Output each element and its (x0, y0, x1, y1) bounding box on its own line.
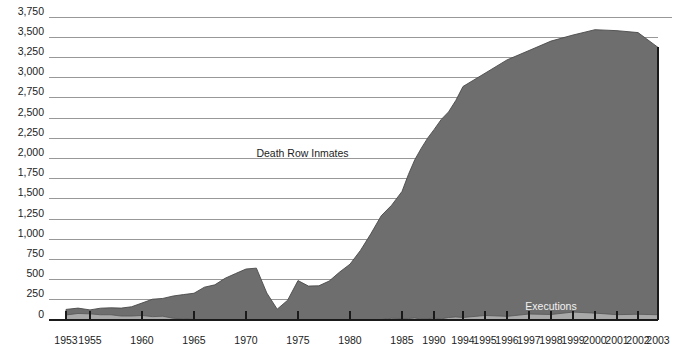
x-tick-label-1975: 1975 (286, 334, 310, 346)
x-tick-label-1955: 1955 (78, 334, 102, 346)
y-tick-label-2750: 2,750 (18, 85, 44, 97)
y-tick-label-2000: 2,000 (18, 146, 44, 158)
executions-label: Executions (525, 300, 576, 312)
y-tick-label-500: 500 (26, 267, 44, 279)
y-tick-label-2250: 2,250 (18, 126, 44, 138)
x-tick-label-2003: 2003 (646, 334, 670, 346)
x-tick-label-1960: 1960 (130, 334, 154, 346)
y-tick-label-750: 750 (26, 247, 44, 259)
y-tick-label-1250: 1,250 (18, 207, 44, 219)
x-tick-label-1997: 1997 (517, 334, 541, 346)
chart-container: 02505007501,0001,2501,5001,7502,0002,250… (0, 0, 683, 362)
x-tick-label-2001: 2001 (605, 334, 629, 346)
x-tick-label-1953: 1953 (54, 334, 78, 346)
x-tick-label-1998: 1998 (539, 334, 563, 346)
death-row-inmates-label: Death Row Inmates (256, 147, 348, 159)
y-tick-label-1500: 1,500 (18, 186, 44, 198)
y-tick-label-250: 250 (26, 287, 44, 299)
x-tick-label-1990: 1990 (422, 334, 446, 346)
y-tick-label-3250: 3,250 (18, 45, 44, 57)
x-tick-label-1999: 1999 (561, 334, 585, 346)
x-tick-label-1965: 1965 (182, 334, 206, 346)
x-tick-label-1985: 1985 (390, 334, 414, 346)
y-tick-label-0: 0 (38, 308, 44, 320)
y-tick-label-1750: 1,750 (18, 166, 44, 178)
x-tick-label-1970: 1970 (234, 334, 258, 346)
x-tick-label-1996: 1996 (495, 334, 519, 346)
death-row-executions-area-chart: 02505007501,0001,2501,5001,7502,0002,250… (0, 0, 683, 362)
x-tick-label-1995: 1995 (473, 334, 497, 346)
x-tick-label-2000: 2000 (583, 334, 607, 346)
x-tick-label-1994: 1994 (451, 334, 475, 346)
x-tick-label-1980: 1980 (338, 334, 362, 346)
y-tick-label-2500: 2,500 (18, 106, 44, 118)
y-tick-label-1000: 1,000 (18, 227, 44, 239)
y-tick-label-3750: 3,750 (18, 5, 44, 17)
y-tick-label-3500: 3,500 (18, 25, 44, 37)
y-tick-label-3000: 3,000 (18, 65, 44, 77)
